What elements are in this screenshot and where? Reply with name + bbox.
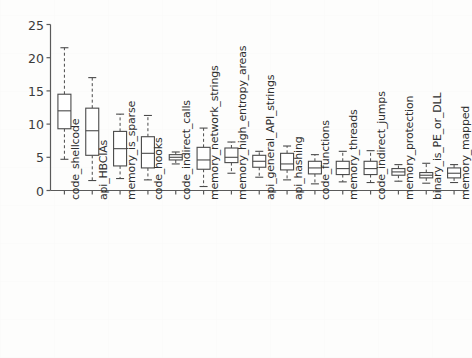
x-axis-tick-label[interactable]: binary_is_PE_or_DLL [431,92,444,199]
x-axis-tick-label[interactable]: memory_network_strings [208,65,221,200]
x-axis-tick-label[interactable]: memory_protection [403,95,416,199]
x-axis-tick-label[interactable]: api_HBCIAs [97,139,110,199]
x-axis-tick-label[interactable]: code_indirect_jumps [375,91,388,200]
x-axis-tick-label[interactable]: code_indirect_calls [180,100,193,200]
box-plot-figure: Importance (%) 0510152025 code_shellcode… [0,0,472,358]
x-axis-tick-label[interactable]: memory_threads [347,109,360,199]
x-axis-tick-label[interactable]: code_functions [319,120,332,200]
x-axis-tick-label[interactable]: code_hooks [152,137,165,200]
boxes-group [58,48,461,187]
x-axis-tick-label[interactable]: api_general_API_strings [264,74,277,199]
x-axis-tick-label[interactable]: memory_is_sparse [125,100,138,199]
x-axis-tick-label[interactable]: memory_high_entropy_areas [236,45,249,199]
x-axis-tick-label[interactable]: code_shellcode [69,118,82,199]
x-axis-tick-label[interactable]: api_hashing [292,136,305,200]
x-axis-tick-label[interactable]: memory_mapped [459,105,472,199]
